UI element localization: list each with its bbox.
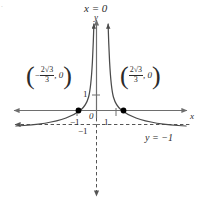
graph-figure: ˎ x = 0 y x y = −1 −1 0 1 1 −1 (− 2√3 3 …	[0, 0, 201, 211]
callout-right-denominator: 3	[129, 76, 143, 84]
callout-left-close-paren: )	[63, 61, 72, 90]
callout-right-close-paren: )	[152, 61, 161, 90]
horizontal-asymptote-label: y = −1	[145, 133, 173, 143]
callout-right-fraction: 2√3 3	[129, 66, 143, 84]
x-axis-label: x	[190, 112, 194, 121]
callout-right-y-value: , 0	[143, 70, 152, 80]
x-tick-label-one: 1	[104, 118, 109, 127]
x-tick-label-zero: 0	[89, 112, 94, 121]
callout-right-open-paren: (	[120, 61, 129, 90]
callout-left-denominator: 3	[40, 76, 54, 84]
y-axis-label: y	[94, 13, 98, 22]
y-tick-label-negative-one: −1	[78, 127, 88, 136]
callout-left-open-paren: (	[26, 61, 35, 90]
callout-left-fraction: 2√3 3	[40, 66, 54, 84]
callout-left-intercept: (− 2√3 3 , 0)	[26, 62, 72, 88]
intercept-point-right	[121, 108, 127, 114]
corner-artifact-mark: ˎ	[1, 1, 3, 7]
intercept-point-left	[76, 108, 82, 114]
callout-right-intercept: ( 2√3 3 , 0)	[120, 62, 161, 88]
y-tick-label-one: 1	[83, 90, 88, 99]
callout-left-y-value: , 0	[54, 70, 63, 80]
graph-canvas	[0, 0, 201, 211]
